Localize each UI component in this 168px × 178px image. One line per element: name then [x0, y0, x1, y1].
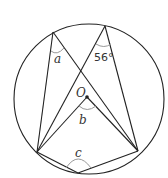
label-given-angle: 56°	[94, 51, 114, 64]
label-a: a	[54, 52, 61, 66]
circle-diagram: a 56° O b c	[0, 0, 168, 178]
label-b: b	[79, 113, 87, 127]
angle-arc-56	[96, 44, 111, 47]
angle-arc-b	[79, 106, 96, 110]
chord-left-bottom	[37, 152, 78, 173]
chord-topleft-right	[53, 32, 138, 151]
label-center-o: O	[76, 86, 86, 100]
angle-arc-c	[66, 159, 91, 168]
chord-topleft-left	[37, 32, 53, 152]
chord-topright-left	[37, 26, 105, 152]
label-c: c	[75, 146, 82, 160]
